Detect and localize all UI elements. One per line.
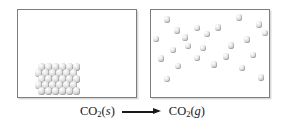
reactant-state-close: ) [111, 104, 115, 118]
molecule [204, 31, 210, 37]
arrow-head [153, 108, 161, 114]
molecule [170, 47, 176, 53]
molecule [194, 25, 200, 31]
product-formula-main: CO [169, 104, 186, 118]
molecule [182, 34, 188, 40]
molecule [256, 21, 262, 27]
molecule [175, 63, 181, 69]
molecule [73, 87, 80, 94]
molecule [185, 43, 191, 49]
gas-container [150, 9, 270, 98]
molecule [174, 27, 180, 33]
molecule [194, 55, 200, 61]
gas-particle-field [151, 10, 269, 97]
right-arrow-icon [122, 107, 162, 117]
molecule [215, 24, 221, 30]
molecule [200, 45, 206, 51]
reaction-equation: CO2(s) CO2(g) [0, 100, 285, 124]
molecule [153, 36, 159, 42]
arrow-shaft [122, 111, 155, 112]
reactant-formula: CO2(s) [80, 105, 115, 119]
molecule [262, 30, 268, 36]
molecule [164, 76, 170, 82]
solid-container [17, 9, 137, 98]
sublimation-figure: CO2(s) CO2(g) [0, 0, 285, 124]
product-formula: CO2(g) [169, 105, 205, 119]
crystal-lattice [18, 10, 136, 97]
molecule [258, 74, 264, 80]
molecule [239, 65, 245, 71]
molecule [164, 16, 170, 22]
molecule [244, 36, 250, 42]
molecule [211, 61, 217, 67]
molecule [228, 42, 234, 48]
molecule [223, 53, 229, 59]
molecule [250, 52, 256, 58]
product-state-close: ) [201, 104, 205, 118]
molecule [236, 14, 242, 20]
reactant-formula-main: CO [80, 104, 97, 118]
molecule [158, 55, 164, 61]
